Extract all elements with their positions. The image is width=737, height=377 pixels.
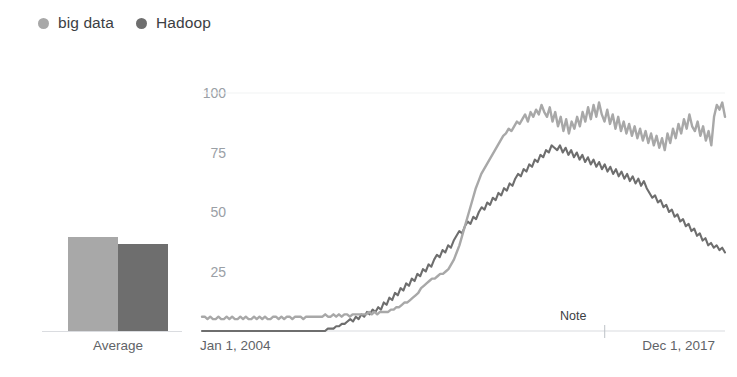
bar-hadoop[interactable]: [118, 244, 168, 331]
bar-group: [68, 211, 168, 331]
legend-item-big-data[interactable]: big data: [38, 14, 114, 32]
line-plot-area: [202, 60, 725, 377]
x-tick-start: Jan 1, 2004: [200, 338, 271, 353]
series-dot-icon: [136, 18, 147, 29]
legend-item-hadoop[interactable]: Hadoop: [136, 14, 211, 32]
average-bar-chart: Average: [0, 60, 190, 360]
line-series-hadoop[interactable]: [202, 145, 725, 331]
bar-baseline-axis: [42, 331, 182, 332]
timeseries-line-chart: 100 75 50 25 Jan 1, 2004 Dec 1, 2017 Not…: [178, 60, 737, 377]
trends-chart-screen: big data Hadoop Average 100 75 50 25: [0, 0, 737, 377]
bar-chart-caption: Average: [68, 338, 168, 353]
legend-label-hadoop: Hadoop: [156, 14, 211, 32]
chart-legend: big data Hadoop: [38, 14, 211, 32]
legend-label-big-data: big data: [58, 14, 114, 32]
line-series-big-data[interactable]: [202, 103, 725, 320]
line-plot-svg: [202, 60, 725, 377]
x-tick-end: Dec 1, 2017: [642, 338, 715, 353]
bar-big-data[interactable]: [68, 237, 118, 331]
note-annotation-label: Note: [560, 309, 586, 323]
series-dot-icon: [38, 18, 49, 29]
